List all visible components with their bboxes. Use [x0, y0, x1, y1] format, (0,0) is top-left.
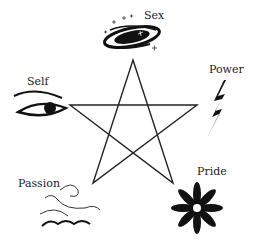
label-pride: Pride	[197, 165, 227, 178]
flower-icon	[0, 0, 256, 247]
pentagram-diagram: Sex Self Power Passion Pride	[0, 0, 256, 247]
